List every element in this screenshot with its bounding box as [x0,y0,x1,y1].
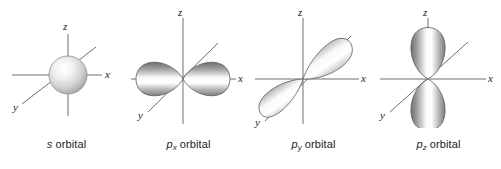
orbital-panel-py: z x y py orbital [251,0,376,169]
px-axis-label-z: z [177,8,183,18]
py-lobe-negative [259,79,303,117]
pz-lobe-negative [411,79,445,128]
orbital-panel-s: z x y s orbital [4,0,129,169]
s-orbital-sphere [49,56,87,94]
pz-lobe-positive [411,28,445,80]
s-axis-label-z: z [62,20,68,32]
orbital-panel-px: z x y px orbital [126,0,251,169]
pz-axis-label-y: y [379,109,385,121]
s-orbital-caption: s orbital [4,138,129,150]
pz-orbital-caption: pz orbital [376,138,501,152]
s-orbital-diagram: z x y [4,8,129,128]
py-axis-label-y: y [254,116,260,128]
py-orbital-diagram: z x y [251,8,376,128]
px-lobe-positive [183,62,230,96]
px-lobe-negative [136,62,183,96]
px-axis-label-y: y [137,109,143,121]
orbital-figure: z x y s orbital [0,0,501,169]
px-axis-label-x: x [237,72,243,84]
py-lobe-positive [303,38,352,79]
pz-orbital-caption-word: orbital [427,138,461,150]
s-axis-label-y: y [12,101,18,113]
pz-axis-label-z: z [422,8,428,18]
px-orbital-caption-word: orbital [177,138,211,150]
orbital-panel-pz: z x y pz orbital [376,0,501,169]
py-axis-label-x: x [360,72,366,84]
pz-orbital-diagram: z x y [376,8,501,128]
py-axis-label-z: z [297,8,303,18]
pz-axis-label-x: x [487,72,493,84]
px-orbital-diagram: z x y [126,8,251,128]
px-orbital-caption: px orbital [126,138,251,152]
py-orbital-caption: py orbital [251,138,376,152]
s-axis-label-x: x [104,68,110,80]
py-orbital-caption-word: orbital [302,138,336,150]
s-orbital-caption-word: orbital [52,138,86,150]
